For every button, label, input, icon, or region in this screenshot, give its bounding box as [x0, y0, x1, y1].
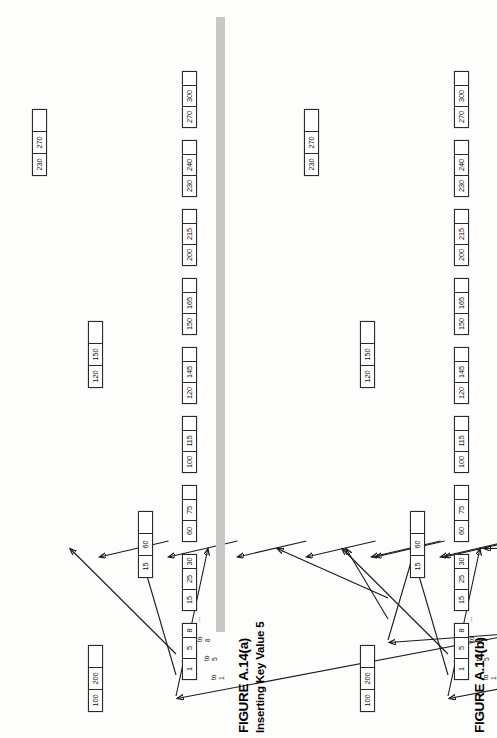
- leaf-next-pointer: [183, 141, 196, 154]
- leaf-node[interactable]: 270 300: [454, 71, 469, 128]
- leaf-node[interactable]: 200 215: [454, 209, 469, 266]
- internal-node-120-150[interactable]: 120 150: [88, 321, 103, 388]
- leaf-key-1: 240: [455, 154, 468, 175]
- leaf-next-pointer: [455, 348, 468, 361]
- internal-node-15-60[interactable]: 15 60: [410, 511, 425, 578]
- figure-a14a-caption-label: FIGURE A.14(a): [236, 622, 251, 734]
- leaf-next-pointer: [455, 279, 468, 292]
- internal-key-0: 230: [305, 153, 318, 175]
- leaf-key-0: 15: [455, 589, 468, 610]
- leaf-key-0: 120: [455, 382, 468, 403]
- leaf-key-0: 100: [183, 451, 196, 472]
- leaf-key-0: 60: [183, 520, 196, 541]
- leaf-key-1: 5: [183, 637, 196, 658]
- figure-a14a: 100 200 15 60 120 150 230 270: [0, 0, 200, 738]
- leaf-key-0: 1: [455, 658, 468, 679]
- leaf-key-0: 230: [455, 175, 468, 196]
- internal-key-1: 270: [305, 131, 318, 153]
- leaf-node[interactable]: 100 115: [454, 416, 469, 473]
- leaf-node[interactable]: 120 145: [454, 347, 469, 404]
- leaf-key-0: 270: [455, 106, 468, 127]
- root-slot-empty: [89, 646, 102, 667]
- figure-a14b: 100 200 15 60 120 150 230 270 1: [272, 0, 472, 738]
- internal-key-0: 120: [89, 365, 102, 387]
- root-key-1: 200: [89, 667, 102, 689]
- leaf-key-1: 145: [455, 361, 468, 382]
- leaf-node[interactable]: 230 240: [182, 140, 197, 197]
- leaf-key-0: 60: [455, 520, 468, 541]
- root-key-0: 100: [361, 689, 374, 711]
- leaf-key-2: 30: [455, 555, 468, 568]
- internal-slot-empty: [411, 512, 424, 533]
- root-slot-empty: [361, 646, 374, 667]
- leaf-node[interactable]: 230 240: [454, 140, 469, 197]
- leaf-next-pointer: [183, 279, 196, 292]
- leaf-node[interactable]: 100 115: [182, 416, 197, 473]
- leaf-node[interactable]: 1 5 8: [454, 623, 469, 680]
- internal-node-230-270[interactable]: 230 270: [32, 109, 47, 176]
- leaf-key-1: 75: [183, 499, 196, 520]
- leaf-key-1: 75: [455, 499, 468, 520]
- leaf-key-1: 115: [183, 430, 196, 451]
- leaf-key-0: 150: [455, 313, 468, 334]
- leaf-key-0: 230: [183, 175, 196, 196]
- leaf-key-0: 200: [455, 244, 468, 265]
- internal-node-15-60[interactable]: 15 60: [138, 511, 153, 578]
- leaf-node[interactable]: 150 165: [454, 278, 469, 335]
- leaf-key-1: 165: [183, 292, 196, 313]
- internal-key-1: 60: [411, 533, 424, 555]
- leaf-next-pointer: [455, 141, 468, 154]
- root-node[interactable]: 100 200: [360, 645, 375, 712]
- leaf-node[interactable]: 60 75: [182, 485, 197, 542]
- root-node[interactable]: 100 200: [88, 645, 103, 712]
- internal-key-1: 150: [89, 343, 102, 365]
- figure-a14a-caption-title: Inserting Key Value 5: [254, 622, 266, 734]
- leaf-next-pointer: [455, 210, 468, 223]
- leaf-key-1: 240: [183, 154, 196, 175]
- leaf-key-2: 30: [183, 555, 196, 568]
- leaf-key-1: 5: [455, 637, 468, 658]
- leaf-node[interactable]: 150 165: [182, 278, 197, 335]
- leaf-key-2: 8: [183, 624, 196, 637]
- record-pointer-label-1: to 1: [210, 675, 225, 681]
- record-pointer-label-3: to 8: [196, 637, 211, 643]
- internal-node-120-150[interactable]: 120 150: [360, 321, 375, 388]
- leaf-key-1: 25: [455, 568, 468, 589]
- leaf-node[interactable]: 60 75: [454, 485, 469, 542]
- figure-a14a-caption: FIGURE A.14(a) Inserting Key Value 5: [236, 622, 266, 734]
- leaf-next-pointer: [183, 348, 196, 361]
- leaf-next-pointer: [455, 486, 468, 499]
- internal-node-230-270[interactable]: 230 270: [304, 109, 319, 176]
- internal-key-0: 15: [139, 555, 152, 577]
- internal-slot-empty: [361, 322, 374, 343]
- internal-slot-empty: [89, 322, 102, 343]
- leaf-key-1: 115: [455, 430, 468, 451]
- leaf-key-1: 300: [183, 85, 196, 106]
- leaf-key-0: 270: [183, 106, 196, 127]
- leaf-node[interactable]: 15 25 30: [182, 554, 197, 611]
- ellipsis-label: ...: [466, 617, 474, 623]
- page-gutter-rule: [216, 17, 225, 632]
- internal-key-0: 120: [361, 365, 374, 387]
- leaf-key-0: 150: [183, 313, 196, 334]
- leaf-next-pointer: [455, 72, 468, 85]
- leaf-node[interactable]: 120 145: [182, 347, 197, 404]
- leaf-key-0: 15: [183, 589, 196, 610]
- leaf-next-pointer: [183, 486, 196, 499]
- leaf-node[interactable]: 200 215: [182, 209, 197, 266]
- ellipsis-label: ...: [194, 617, 202, 623]
- leaf-next-pointer: [183, 210, 196, 223]
- leaf-key-1: 215: [183, 223, 196, 244]
- leaf-key-0: 100: [455, 451, 468, 472]
- leaf-node[interactable]: 1 5 8: [182, 623, 197, 680]
- leaf-node[interactable]: 270 300: [182, 71, 197, 128]
- record-pointer-label-2: to 5: [203, 656, 218, 662]
- root-key-0: 100: [89, 689, 102, 711]
- leaf-key-0: 120: [183, 382, 196, 403]
- root-key-1: 200: [361, 667, 374, 689]
- leaf-key-1: 25: [183, 568, 196, 589]
- internal-key-1: 150: [361, 343, 374, 365]
- internal-slot-empty: [305, 110, 318, 131]
- leaf-node[interactable]: 15 25 30: [454, 554, 469, 611]
